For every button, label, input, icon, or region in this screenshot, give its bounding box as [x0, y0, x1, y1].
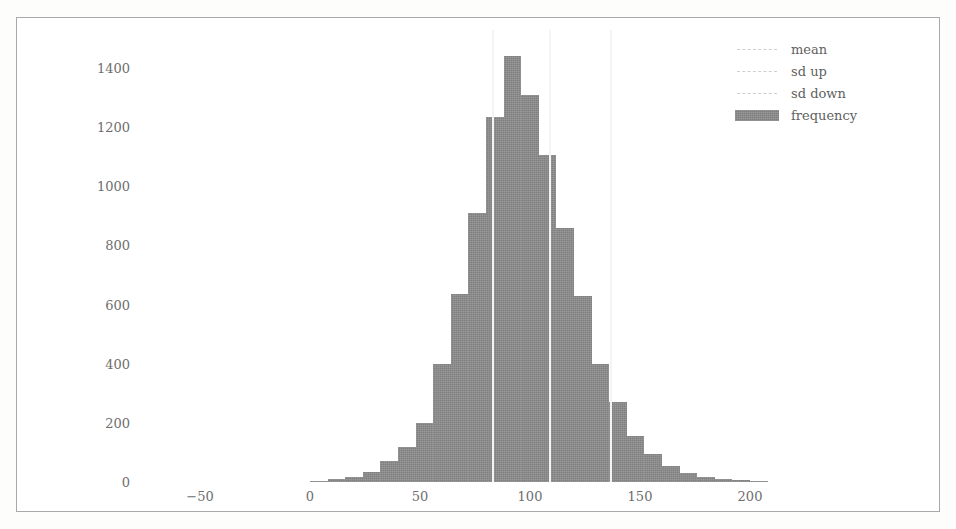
histogram-bar [451, 294, 469, 482]
chart-page: 0200400600800100012001400 −5005010015020… [0, 0, 956, 529]
x-tick-label: 0 [306, 489, 314, 504]
y-tick-label: 1400 [78, 61, 130, 76]
histogram-bar [416, 423, 434, 482]
reference-line-mean [549, 30, 551, 482]
y-tick-label: 200 [78, 415, 130, 430]
histogram-bar [345, 477, 363, 482]
histogram-bar [592, 364, 610, 482]
histogram-bar [715, 479, 733, 482]
histogram-bar [398, 447, 416, 482]
histogram-bar [433, 364, 451, 482]
x-tick-label: 200 [738, 489, 763, 504]
histogram-bar [644, 454, 662, 482]
histogram-bar [697, 477, 715, 482]
legend-item-sd-down: sd down [735, 82, 920, 104]
reference-line-sd-down [492, 30, 494, 482]
histogram-bar [504, 56, 522, 482]
histogram-bar [328, 479, 346, 482]
chart-legend: meansd upsd downfrequency [735, 38, 920, 126]
x-tick-label: 150 [628, 489, 653, 504]
legend-swatch-icon [735, 110, 779, 121]
y-tick-label: 400 [78, 356, 130, 371]
x-tick-label: 50 [412, 489, 429, 504]
x-tick-label: −50 [186, 489, 213, 504]
legend-item-label: frequency [791, 108, 857, 123]
histogram-bar [732, 480, 750, 482]
histogram-bar [680, 473, 698, 482]
legend-line-icon [735, 42, 779, 56]
y-tick-label: 1000 [78, 179, 130, 194]
histogram-bar [539, 155, 557, 482]
histogram-bar [556, 228, 574, 482]
legend-item-label: sd up [791, 64, 827, 79]
legend-item-frequency: frequency [735, 104, 920, 126]
histogram-bar [627, 436, 645, 482]
histogram-bar [468, 213, 486, 482]
histogram-bar [486, 117, 504, 482]
histogram-bar [363, 472, 381, 482]
legend-item-label: mean [791, 42, 827, 57]
y-tick-label: 1200 [78, 120, 130, 135]
y-tick-label: 0 [78, 475, 130, 490]
y-tick-label: 800 [78, 238, 130, 253]
reference-line-sd-up [610, 30, 612, 482]
legend-line-icon [735, 64, 779, 78]
legend-item-label: sd down [791, 86, 846, 101]
x-tick-label: 100 [518, 489, 543, 504]
histogram-bar [662, 466, 680, 482]
histogram-bar [380, 461, 398, 482]
histogram-bar [574, 296, 592, 482]
legend-item-sd-up: sd up [735, 60, 920, 82]
legend-item-mean: mean [735, 38, 920, 60]
histogram-bar [521, 95, 539, 482]
legend-line-icon [735, 86, 779, 100]
y-tick-label: 600 [78, 297, 130, 312]
histogram-bar [310, 481, 328, 482]
histogram-bar [750, 481, 768, 482]
